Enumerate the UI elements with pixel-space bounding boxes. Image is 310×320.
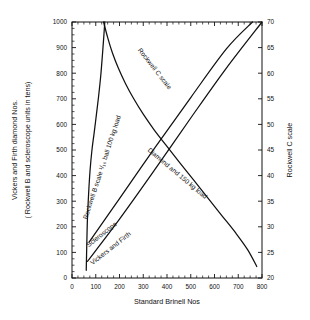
x-tick-label: 200 bbox=[114, 283, 125, 290]
y-tick-label-left: 700 bbox=[56, 95, 67, 102]
plot-frame bbox=[72, 22, 262, 278]
y-tick-label-right: 55 bbox=[267, 95, 275, 102]
x-tick-label: 100 bbox=[90, 283, 101, 290]
y-tick-label-left: 500 bbox=[56, 146, 67, 153]
x-tick-label: 500 bbox=[185, 283, 196, 290]
x-tick-label: 0 bbox=[70, 283, 74, 290]
x-tick-label: 400 bbox=[162, 283, 173, 290]
y-axis-title-right: Rockwell C scale bbox=[285, 123, 294, 178]
y-tick-label-right: 30 bbox=[267, 223, 275, 230]
x-tick-label: 800 bbox=[257, 283, 268, 290]
y-tick-label-right: 40 bbox=[267, 172, 275, 179]
y-tick-label-left: 100 bbox=[56, 249, 67, 256]
x-tick-label: 700 bbox=[233, 283, 244, 290]
axis-ticks bbox=[72, 22, 262, 278]
rockwell-c-label: Rockwell C scale bbox=[137, 47, 174, 91]
data-curves bbox=[86, 22, 262, 270]
y-tick-label-right: 25 bbox=[267, 249, 275, 256]
chart-canvas: 0100200300400500600700800010020030040050… bbox=[0, 0, 310, 320]
y-tick-label-left: 200 bbox=[56, 223, 67, 230]
x-tick-label: 600 bbox=[209, 283, 220, 290]
y-tick-label-right: 45 bbox=[267, 146, 275, 153]
y-tick-label-left: 0 bbox=[63, 274, 67, 281]
y-tick-label-left: 600 bbox=[56, 121, 67, 128]
y-axis-title-left-line2: ( Rockwell B and scleroscope units in te… bbox=[23, 81, 32, 218]
axis-tick-labels: 0100200300400500600700800010020030040050… bbox=[53, 18, 275, 290]
y-axis-title-left-line1: Vickers and Firth diamond Nos. bbox=[10, 100, 19, 200]
y-tick-label-left: 300 bbox=[56, 198, 67, 205]
rockwell-b-label: Rockwell B scale ¹/₁₆ ball 100 kg load bbox=[82, 114, 123, 220]
y-tick-label-left: 800 bbox=[56, 70, 67, 77]
x-axis-title: Standard Brinell Nos bbox=[134, 297, 200, 306]
y-tick-label-right: 20 bbox=[267, 274, 275, 281]
diamond-load-label: Diamond and 150 kg load bbox=[146, 146, 209, 201]
y-tick-label-left: 1000 bbox=[53, 18, 68, 25]
y-tick-label-right: 35 bbox=[267, 198, 275, 205]
y-tick-label-right: 60 bbox=[267, 70, 275, 77]
axis-titles: Standard Brinell NosVickers and Firth di… bbox=[10, 81, 294, 306]
y-tick-label-right: 50 bbox=[267, 121, 275, 128]
y-tick-label-right: 65 bbox=[267, 44, 275, 51]
plot-border bbox=[72, 22, 262, 278]
x-tick-label: 300 bbox=[138, 283, 149, 290]
y-tick-label-left: 400 bbox=[56, 172, 67, 179]
y-tick-label-right: 70 bbox=[267, 18, 275, 25]
y-tick-label-left: 900 bbox=[56, 44, 67, 51]
hardness-conversion-chart: 0100200300400500600700800010020030040050… bbox=[0, 0, 310, 320]
